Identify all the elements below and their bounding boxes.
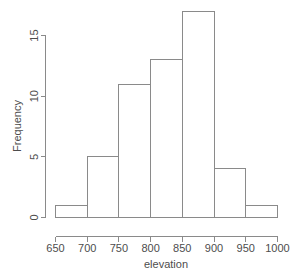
y-tick-label-5: 5 [28,154,40,160]
y-tick-label-15: 15 [28,29,40,41]
x-tick-label-750: 750 [110,242,128,254]
y-axis-title: Frequency [11,100,23,152]
x-tick-label-900: 900 [205,242,223,254]
y-tick-label-0: 0 [28,214,40,220]
plot-background [0,0,298,276]
x-axis-title: elevation [144,258,188,270]
x-tick-label-700: 700 [78,242,96,254]
x-tick-label-850: 850 [173,242,191,254]
y-tick-label-10: 10 [28,90,40,102]
x-tick-label-950: 950 [237,242,255,254]
x-tick-label-800: 800 [141,242,159,254]
x-tick-label-1000: 1000 [265,242,289,254]
chart-canvas: 0 5 10 15 Frequency 650 [0,0,298,276]
histogram-plot: 0 5 10 15 Frequency 650 [0,0,298,276]
x-tick-label-650: 650 [46,242,64,254]
